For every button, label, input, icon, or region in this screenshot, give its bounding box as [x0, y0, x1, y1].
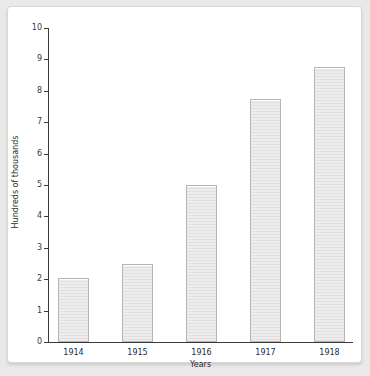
- bar-1914: [58, 278, 89, 342]
- y-axis-tick-mark: [44, 59, 48, 60]
- y-axis-tick-mark: [44, 311, 48, 312]
- y-axis-tick-label: 9: [37, 53, 42, 64]
- bar-1916: [186, 185, 217, 342]
- bar-top-highlight: [251, 100, 280, 101]
- y-axis-tick-mark: [44, 248, 48, 249]
- y-axis-tick-label: 10: [32, 22, 42, 33]
- y-axis-title: Hundreds of thousands: [10, 22, 22, 342]
- y-axis-tick-mark: [44, 122, 48, 123]
- y-axis-line: [48, 28, 49, 342]
- y-axis-tick-label: 1: [37, 305, 42, 316]
- bar-1918: [314, 67, 345, 342]
- bar-1917: [250, 99, 281, 342]
- x-axis-tick-label-1918: 1918: [300, 347, 360, 358]
- y-axis-tick-label: 4: [37, 210, 42, 221]
- y-axis-tick-label: 8: [37, 85, 42, 96]
- bar-1915: [122, 264, 153, 343]
- plot-area: 012345678910 19141915191619171918 Years …: [48, 22, 353, 342]
- y-axis-tick-mark: [44, 28, 48, 29]
- y-axis-tick-mark: [44, 279, 48, 280]
- bar-top-highlight: [123, 265, 152, 266]
- y-axis-tick-label: 2: [37, 273, 42, 284]
- x-axis-title: Years: [48, 360, 353, 369]
- bar-top-highlight: [187, 186, 216, 187]
- y-axis-tick-mark: [44, 185, 48, 186]
- y-axis-tick-label: 0: [37, 336, 42, 347]
- y-axis-tick-mark: [44, 91, 48, 92]
- y-axis-tick-mark: [44, 154, 48, 155]
- y-axis-tick-mark: [44, 216, 48, 217]
- x-axis-tick-label-1915: 1915: [108, 347, 168, 358]
- y-axis-tick-label: 7: [37, 116, 42, 127]
- bar-top-highlight: [59, 279, 88, 280]
- x-axis-tick-label-1914: 1914: [44, 347, 104, 358]
- chart-card: 012345678910 19141915191619171918 Years …: [7, 6, 362, 363]
- x-axis-tick-label-1916: 1916: [172, 347, 232, 358]
- x-axis-line: [48, 342, 353, 343]
- y-axis-tick-label: 3: [37, 242, 42, 253]
- bar-top-highlight: [315, 68, 344, 69]
- y-axis-tick-label: 5: [37, 179, 42, 190]
- y-axis-tick-label: 6: [37, 148, 42, 159]
- x-axis-tick-label-1917: 1917: [236, 347, 296, 358]
- y-axis-tick-mark: [44, 342, 48, 343]
